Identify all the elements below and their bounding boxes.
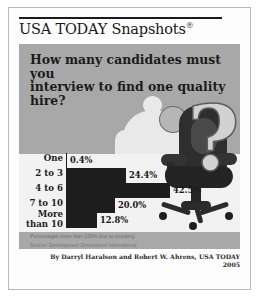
bar-category-label: 7 to 10: [19, 199, 63, 209]
bar-category-label: More than 10: [19, 210, 63, 229]
bar-category-label: 2 to 3: [19, 169, 63, 179]
chart-footnotes: Percentages more than 100% due to roundi…: [30, 233, 226, 249]
bar-value-label: 12.8%: [100, 213, 128, 228]
byline-year: 2005: [19, 261, 240, 269]
poster-panel: How many candidates must you interview t…: [19, 44, 240, 249]
bar-category-label: One: [19, 154, 63, 164]
rounding-note: Percentages more than 100% due to roundi…: [30, 233, 226, 239]
bar: [66, 213, 97, 228]
source-note-line-2: Selection Forecast of human resource pro…: [30, 248, 226, 249]
byline: By Darryl Haralson and Robert W. Ahrens,…: [19, 253, 240, 270]
chart-row: More than 10 12.8%: [19, 211, 240, 226]
chart-row: 4 to 6 42.5%: [19, 181, 240, 196]
bar-chart: One 0.4% 2 to 3 24.4% 4 to 6 42.5% 7 to …: [19, 151, 240, 227]
headline-line-1: How many candidates must you: [30, 53, 230, 80]
registered-mark-icon: ®: [186, 21, 194, 30]
snapshot-card: USA TODAY Snapshots® How many candidates…: [8, 7, 251, 290]
chart-row: One 0.4%: [19, 151, 240, 166]
chart-row: 2 to 3 24.4%: [19, 166, 240, 181]
masthead-rule: [19, 17, 222, 19]
byline-credit: By Darryl Haralson and Robert W. Ahrens,…: [19, 253, 240, 261]
page-title: USA TODAY Snapshots®: [19, 21, 234, 41]
brand-name: USA TODAY Snapshots: [19, 21, 186, 37]
bar-category-label: 4 to 6: [19, 184, 63, 194]
bar-category-label-line-2: than 10: [19, 220, 63, 230]
